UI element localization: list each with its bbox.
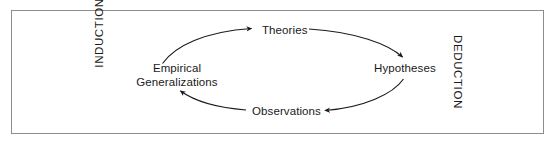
figure-canvas: Theories Hypotheses Observations Empiric… — [0, 0, 555, 148]
node-theories: Theories — [262, 24, 308, 38]
arrow-empirical-to-theories — [163, 29, 252, 64]
arrow-hypotheses-to-observations — [325, 79, 404, 111]
node-hypotheses: Hypotheses — [374, 62, 436, 76]
node-observations: Observations — [252, 105, 321, 119]
node-empirical-generalizations: Empirical Generalizations — [130, 62, 224, 89]
side-label-induction: INDUCTION — [93, 0, 107, 79]
arrow-theories-to-hypotheses — [309, 29, 403, 57]
node-empirical-generalizations-line2: Generalizations — [130, 76, 224, 90]
node-empirical-generalizations-line1: Empirical — [130, 62, 224, 76]
arrow-observations-to-empirical — [181, 91, 247, 110]
side-label-deduction: DEDUCTION — [450, 26, 464, 118]
cycle-arrows — [0, 0, 555, 148]
